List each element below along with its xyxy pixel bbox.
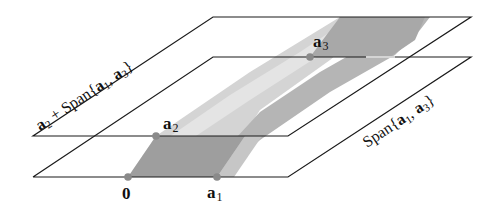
a3-point	[306, 53, 314, 61]
lower-plane-label: Span{a1, a3}	[359, 91, 438, 152]
a1-label: a1	[207, 183, 223, 204]
a2-label: a2	[163, 114, 179, 135]
span-planes-diagram: 0 a1 a2 a3 a2 + Span{a1, a3} Span{a1, a3…	[0, 0, 497, 212]
origin-point	[124, 173, 132, 181]
shaded-region	[128, 17, 430, 177]
a2-point	[152, 132, 160, 140]
a1-point	[213, 173, 221, 181]
upper-plane-label: a2 + Span{a1, a3}	[32, 57, 137, 135]
origin-label: 0	[122, 184, 131, 203]
